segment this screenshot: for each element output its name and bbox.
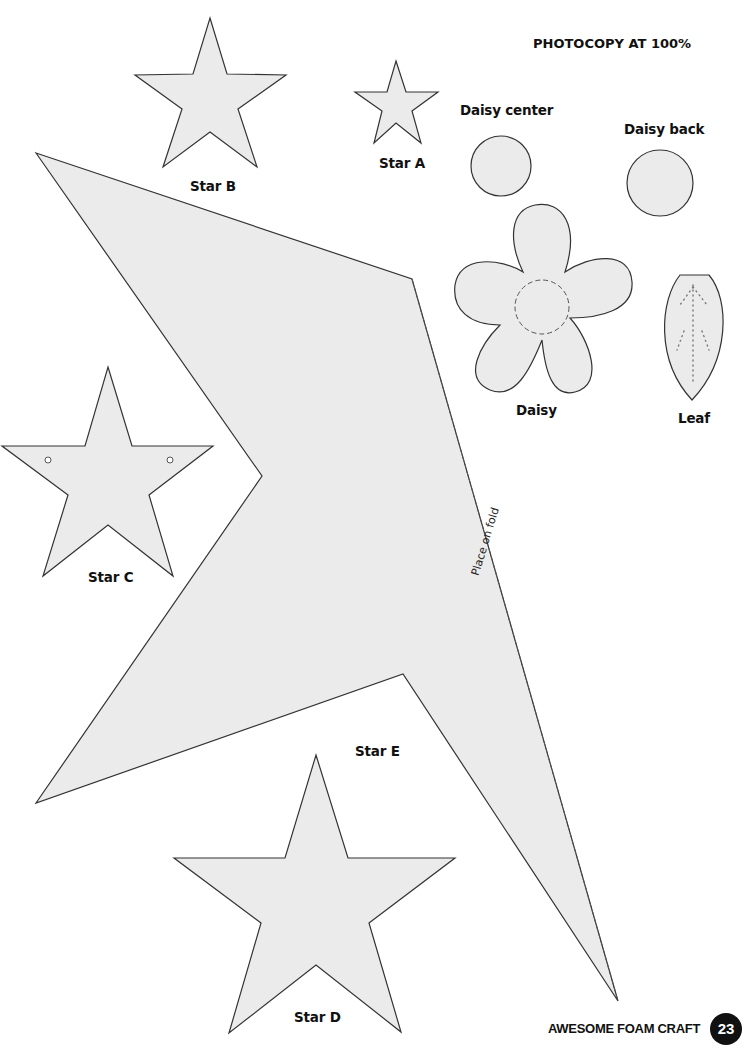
daisy-label: Daisy [516, 402, 557, 418]
daisy-back-label: Daisy back [624, 121, 704, 137]
footer-book-title: AWESOME FOAM CRAFT [548, 1021, 700, 1036]
daisy-center-shape [471, 136, 531, 196]
star-c-shape [2, 367, 213, 576]
leaf-label: Leaf [678, 410, 710, 426]
daisy-shape [455, 204, 632, 392]
leaf-shape [665, 275, 724, 400]
photocopy-instruction: PHOTOCOPY AT 100% [533, 36, 691, 51]
star-d-label: Star D [294, 1009, 341, 1025]
star-d-shape [174, 755, 455, 1033]
page-number-badge: 23 [710, 1013, 742, 1045]
star-c-label: Star C [88, 569, 133, 585]
star-b-label: Star B [190, 178, 236, 194]
hang-hole-right [167, 457, 173, 463]
star-e-label: Star E [355, 743, 400, 759]
daisy-back-shape [627, 150, 693, 216]
hang-hole-left [45, 457, 51, 463]
star-b-shape [135, 18, 286, 167]
template-sheet [0, 0, 752, 1051]
star-a-shape [355, 61, 438, 143]
daisy-center-label: Daisy center [460, 102, 553, 118]
star-a-label: Star A [379, 155, 425, 171]
